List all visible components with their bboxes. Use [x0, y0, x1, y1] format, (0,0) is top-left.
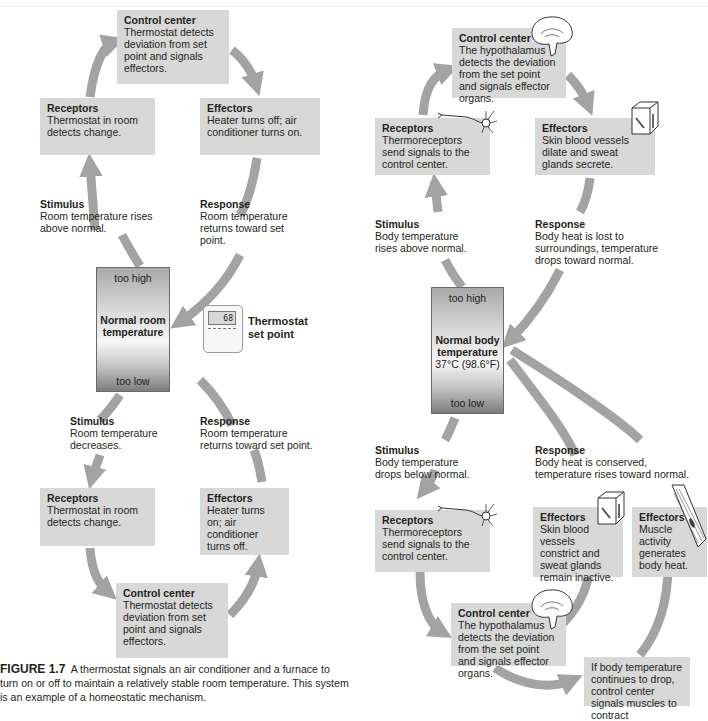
right-bottom-note: If body temperature continues to drop, c… — [584, 657, 690, 706]
label-title: Stimulus — [375, 218, 470, 230]
body-temperature-gauge: too high Normal body temperature 37°C (9… — [431, 287, 504, 414]
box-text: Thermoreceptors send signals to the cont… — [382, 526, 470, 562]
skin-block-icon — [594, 490, 628, 526]
left-bottom-control-center: Control center Thermostat detects deviat… — [116, 583, 228, 658]
label-text: Room temperature decreases. — [70, 427, 158, 451]
neuron-icon — [436, 498, 498, 528]
thermostat-icon: 68 — [203, 305, 243, 353]
label-title: Response — [535, 444, 695, 456]
left-bottom-response: Response Room temperature returns toward… — [200, 415, 320, 451]
right-top-stimulus: Stimulus Body temperature rises above no… — [375, 218, 470, 254]
gauge-label-line1: Normal room — [97, 314, 169, 326]
box-title: Receptors — [47, 102, 148, 114]
left-top-control-center: Control center Thermostat detects deviat… — [117, 10, 229, 84]
box-text: Thermoreceptors send signals to the cont… — [382, 134, 470, 170]
skin-block-icon — [628, 100, 662, 136]
box-text: Skin blood vessels constrict and sweat g… — [540, 523, 614, 583]
right-top-response: Response Body heat is lost to surroundin… — [535, 218, 665, 266]
box-text: Skin blood vessels dilate and sweat glan… — [542, 134, 629, 170]
label-title: Stimulus — [375, 444, 475, 456]
thermostat-buttons — [208, 328, 236, 332]
figure-number: FIGURE 1.7 — [0, 662, 65, 676]
right-bottom-response: Response Body heat is conserved, tempera… — [535, 444, 695, 480]
gauge-too-low: too low — [432, 397, 503, 409]
label-title: Stimulus — [40, 198, 155, 210]
left-bottom-stimulus: Stimulus Room temperature decreases. — [70, 415, 170, 451]
left-bottom-effectors: Effectors Heater turns on; air condition… — [200, 488, 289, 555]
gauge-label-line2: temperature — [432, 346, 503, 358]
right-bottom-stimulus: Stimulus Body temperature drops below no… — [375, 444, 475, 480]
label-text: Body temperature drops below normal. — [375, 456, 470, 480]
box-title: Effectors — [207, 102, 313, 114]
box-text: Thermostat in room detects change. — [47, 114, 138, 138]
box-text: Heater turns off; air conditioner turns … — [207, 114, 302, 138]
left-bottom-receptors: Receptors Thermostat in room detects cha… — [40, 488, 155, 546]
room-temperature-gauge: too high Normal room temperature too low — [96, 267, 170, 392]
muscle-fiber-icon — [668, 483, 708, 549]
gauge-too-high: too high — [432, 292, 503, 304]
box-title: Control center — [124, 14, 222, 26]
gauge-too-low: too low — [97, 375, 169, 387]
label-title: Response — [535, 218, 665, 230]
left-top-response: Response Room temperature returns toward… — [200, 198, 295, 246]
figure-caption: FIGURE 1.7 A thermostat signals an air c… — [0, 662, 350, 704]
gauge-label-line1: Normal body — [432, 334, 503, 346]
thermostat-set-point-label: Thermostat set point — [248, 315, 308, 341]
label-title: Stimulus — [70, 415, 170, 427]
setpoint-line2: set point — [248, 328, 308, 341]
label-text: Body temperature rises above normal. — [375, 230, 467, 254]
label-title: Response — [200, 415, 320, 427]
gauge-value: 37°C (98.6°F) — [432, 358, 503, 370]
label-text: Room temperature returns toward set poin… — [200, 210, 288, 246]
label-text: Room temperature rises above normal. — [40, 210, 153, 234]
left-top-stimulus: Stimulus Room temperature rises above no… — [40, 198, 155, 234]
box-title: Receptors — [47, 492, 148, 504]
brain-icon — [527, 14, 577, 60]
label-text: Room temperature returns toward set poin… — [200, 427, 313, 451]
box-text: Thermostat detects deviation from set po… — [123, 599, 213, 647]
label-text: Body heat is conserved, temperature rise… — [535, 456, 689, 480]
gauge-label: Normal room temperature — [97, 314, 169, 338]
setpoint-line1: Thermostat — [248, 315, 308, 328]
gauge-label-line2: temperature — [97, 326, 169, 338]
brain-icon — [527, 587, 577, 633]
label-title: Response — [200, 198, 295, 210]
neuron-icon — [436, 105, 498, 135]
box-text: Thermostat in room detects change. — [47, 504, 138, 528]
gauge-label: Normal body temperature 37°C (98.6°F) — [432, 334, 503, 370]
box-title: Control center — [123, 587, 221, 599]
box-text: Thermostat detects deviation from set po… — [124, 26, 214, 74]
left-top-receptors: Receptors Thermostat in room detects cha… — [40, 98, 155, 155]
box-text: Heater turns on; air conditioner turns o… — [207, 504, 265, 552]
label-text: Body heat is lost to surroundings, tempe… — [535, 230, 658, 266]
left-top-effectors: Effectors Heater turns off; air conditio… — [200, 98, 320, 155]
gauge-too-high: too high — [97, 272, 169, 284]
box-title: Effectors — [207, 492, 282, 504]
thermostat-display: 68 — [208, 311, 236, 325]
note-text: If body temperature continues to drop, c… — [591, 661, 682, 721]
